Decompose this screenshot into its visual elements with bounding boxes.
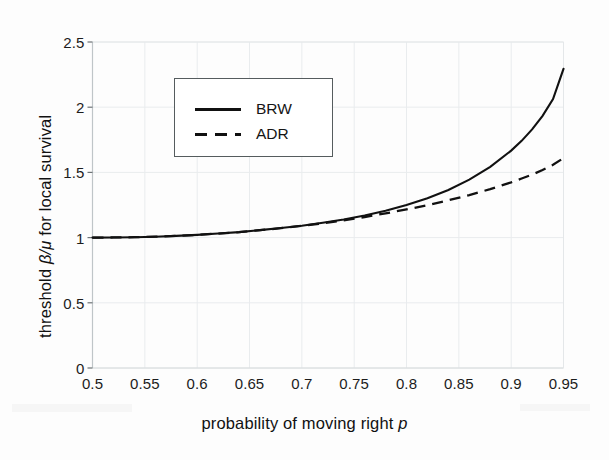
x-axis-title: probability of moving right p [0, 414, 609, 433]
x-tick-label: 0.9 [501, 375, 522, 392]
legend-entry-adr: ADR [175, 123, 332, 145]
legend-entry-brw: BRW [175, 98, 332, 120]
y-tick-label: 2.5 [17, 34, 85, 51]
legend-swatch-solid-line-icon [195, 108, 241, 111]
legend-label-adr: ADR [256, 125, 289, 143]
x-tick-label: 0.5 [82, 375, 103, 392]
legend-label-brw: BRW [256, 100, 292, 118]
x-tick-label: 0.6 [187, 375, 208, 392]
x-tick-label: 0.55 [130, 375, 160, 392]
y-axis-title-suffix: for local survival [36, 115, 54, 241]
x-tick-label: 0.8 [396, 375, 417, 392]
y-axis-title-symbol: β/μ [36, 241, 54, 265]
x-tick-label: 0.75 [339, 375, 369, 392]
legend-box: BRW ADR [174, 78, 333, 157]
x-tick-label: 0.95 [549, 375, 579, 392]
figure-canvas: 00.511.522.5 0.50.550.60.650.70.750.80.8… [0, 0, 609, 460]
legend-swatch-dashed-line-icon [195, 133, 241, 136]
x-tick-label: 0.7 [291, 375, 312, 392]
scan-artifact [520, 404, 590, 411]
y-tick-label: 0 [17, 360, 85, 377]
y-tick-label: 2 [17, 99, 85, 116]
x-axis-title-symbol: p [398, 414, 407, 432]
y-axis-title-prefix: threshold [36, 264, 54, 338]
scan-artifact [12, 404, 132, 412]
x-axis-title-text: probability of moving right [201, 414, 398, 432]
x-tick-label: 0.85 [444, 375, 474, 392]
x-tick-label: 0.65 [235, 375, 265, 392]
series-line-adr [93, 158, 564, 238]
y-axis-title: threshold β/μ for local survival [36, 115, 55, 338]
